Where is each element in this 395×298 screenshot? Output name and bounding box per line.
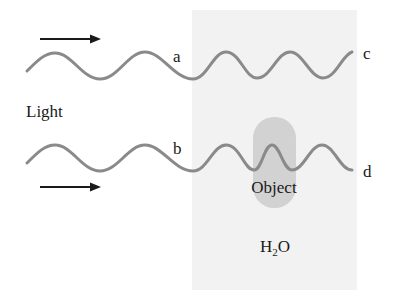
label-light: Light [26, 102, 63, 121]
arrow-right-icon [40, 35, 101, 44]
label-a: a [173, 47, 181, 66]
water-o: O [278, 237, 290, 256]
label-d: d [363, 162, 372, 181]
label-b: b [173, 139, 182, 158]
arrow-right-icon [40, 183, 101, 192]
label-c: c [363, 44, 371, 63]
water-h: H [260, 237, 272, 256]
label-object: Object [251, 178, 297, 197]
refraction-diagram: Light a b c d Object H2O [0, 0, 395, 298]
